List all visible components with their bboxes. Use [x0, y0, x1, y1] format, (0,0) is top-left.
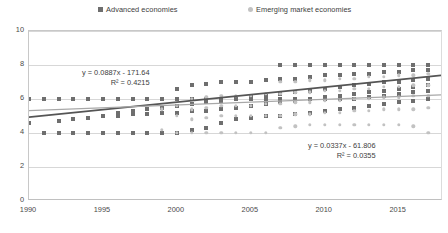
circle-marker-icon — [248, 7, 253, 12]
square-marker-icon — [98, 7, 103, 12]
x-axis-tick-label: 1990 — [20, 206, 36, 213]
y-axis-tick-label: 4 — [0, 128, 24, 135]
y-axis-tick-label: 0 — [0, 196, 24, 203]
trendline-r2-advanced: R² = 0.4215 — [82, 78, 150, 88]
x-axis-tick-label: 2010 — [315, 206, 331, 213]
x-axis-tick-label: 2000 — [168, 206, 184, 213]
y-axis-tick-label: 2 — [0, 162, 24, 169]
legend-entry-advanced-economies[interactable]: Advanced economies — [98, 6, 178, 13]
plot-inner — [29, 31, 441, 199]
trendline-layer — [29, 31, 441, 199]
y-axis-tick-label: 6 — [0, 94, 24, 101]
chart-legend: Advanced economies Emerging market econo… — [0, 6, 448, 22]
trendline-annotation-emerging: y = 0.0337x - 61.806 R² = 0.0355 — [308, 141, 376, 161]
plot-area — [28, 30, 442, 200]
trendline-emerging — [29, 95, 441, 111]
legend-label-emerging-market-economies: Emerging market economies — [256, 6, 351, 13]
scatter-chart: Advanced economies Emerging market econo… — [0, 0, 448, 233]
x-axis-tick-label: 2015 — [389, 206, 405, 213]
y-axis-tick-label: 10 — [0, 26, 24, 33]
legend-label-advanced-economies: Advanced economies — [106, 6, 178, 13]
trendline-annotation-advanced: y = 0.0887x - 171.64 R² = 0.4215 — [82, 68, 150, 88]
trendline-equation-advanced: y = 0.0887x - 171.64 — [82, 68, 150, 78]
trendline-r2-emerging: R² = 0.0355 — [308, 151, 376, 161]
y-axis-tick-labels: 0246810 — [0, 0, 24, 233]
y-axis-tick-label: 8 — [0, 60, 24, 67]
x-axis-tick-label: 2005 — [242, 206, 258, 213]
x-axis-tick-label: 1995 — [94, 206, 110, 213]
legend-entry-emerging-market-economies[interactable]: Emerging market economies — [248, 6, 351, 13]
trendline-equation-emerging: y = 0.0337x - 61.806 — [308, 141, 376, 151]
